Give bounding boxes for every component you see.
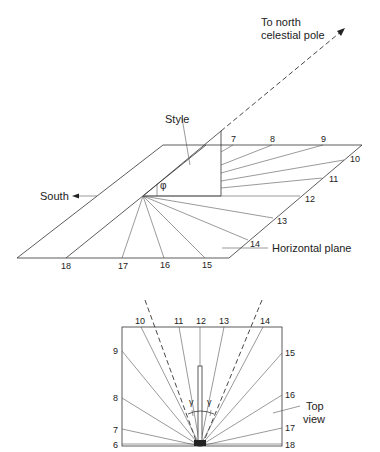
hour-mark-17: 17 xyxy=(118,261,128,271)
top-hour-14: 14 xyxy=(260,316,270,326)
top-view-leader xyxy=(273,406,300,413)
gamma-left: γ xyxy=(189,397,194,407)
sundial-diagram xyxy=(0,0,380,452)
south-label: South xyxy=(40,190,69,203)
top-hour-10: 10 xyxy=(135,316,145,326)
top-view-label-line2: view xyxy=(303,413,325,426)
left-hour-8: 8 xyxy=(113,393,118,403)
plane-strip-line xyxy=(66,145,206,258)
right-hour-16: 16 xyxy=(285,390,295,400)
top-hour-13: 13 xyxy=(219,316,229,326)
right-hour-15: 15 xyxy=(285,348,295,358)
south-arrow-icon xyxy=(72,194,79,199)
hour-mark-14: 14 xyxy=(250,239,260,249)
polar-axis-line xyxy=(221,30,343,131)
perspective-view xyxy=(17,28,362,258)
hour-mark-9: 9 xyxy=(321,134,326,144)
horizontal-plane-label: Horizontal plane xyxy=(272,242,352,255)
hour-mark-10: 10 xyxy=(350,154,360,164)
left-hour-6: 6 xyxy=(113,440,118,450)
top-hour-11: 11 xyxy=(174,316,183,326)
gamma-right: γ xyxy=(207,397,212,407)
right-hour-18: 18 xyxy=(285,440,295,450)
left-hour-7: 7 xyxy=(113,425,118,435)
pole-arrow-icon xyxy=(337,28,345,36)
top-view xyxy=(122,300,300,446)
style-triangle xyxy=(143,131,221,196)
hour-mark-18: 18 xyxy=(61,261,71,271)
hour-mark-11: 11 xyxy=(329,174,338,184)
hour-mark-8: 8 xyxy=(270,134,275,144)
hour-mark-12: 12 xyxy=(305,194,315,204)
right-hour-17: 17 xyxy=(285,423,295,433)
hour-mark-13: 13 xyxy=(277,216,287,226)
left-hour-9: 9 xyxy=(113,346,118,356)
gnomon-base xyxy=(194,440,206,446)
hour-mark-16: 16 xyxy=(160,260,170,270)
hour-mark-15: 15 xyxy=(202,260,212,270)
hour-mark-7: 7 xyxy=(231,134,236,144)
gnomon xyxy=(198,366,202,446)
style-label: Style xyxy=(165,113,189,126)
top-hour-12: 12 xyxy=(196,316,206,326)
phi-symbol: φ xyxy=(160,180,166,191)
top-view-label-line1: Top xyxy=(306,400,324,413)
pole-label-line2: celestial pole xyxy=(261,29,325,42)
pole-label-line1: To north xyxy=(261,16,301,29)
